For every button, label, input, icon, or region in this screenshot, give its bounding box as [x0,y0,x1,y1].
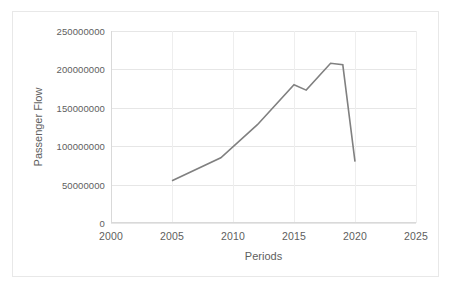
x-tick-label: 2020 [343,230,367,242]
y-tick-label: 250000000 [57,26,105,37]
plot-area: 0500000001000000001500000002000000002500… [111,31,416,223]
x-axis-title-text: Periods [245,250,282,262]
data-series-passenger-flow [111,31,416,223]
y-tick-label: 200000000 [57,64,105,75]
x-tick-label: 2010 [221,230,245,242]
x-tick-label: 2015 [282,230,306,242]
y-axis-title: Passenger Flow [31,31,45,223]
x-tick-label: 2025 [404,230,428,242]
y-tick-label: 50000000 [62,179,105,190]
y-tick-label: 150000000 [57,102,105,113]
chart-frame: Passenger Flow 0500000001000000001500000… [12,11,439,277]
series-line [172,63,355,181]
gridline-horizontal [111,223,416,224]
x-tick-label: 2000 [99,230,123,242]
x-tick-label: 2005 [160,230,184,242]
y-tick-label: 100000000 [57,141,105,152]
y-tick-label: 0 [100,218,105,229]
y-axis-title-text: Passenger Flow [32,88,44,167]
x-axis-title: Periods [111,250,416,262]
gridline-vertical [416,31,417,223]
